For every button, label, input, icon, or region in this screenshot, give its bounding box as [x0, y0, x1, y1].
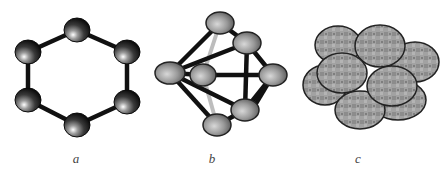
bonds	[28, 30, 127, 125]
sphere-icon	[317, 53, 367, 93]
atom-icon	[259, 64, 287, 86]
panel-b-cluster	[155, 12, 287, 136]
atom-icon	[231, 99, 259, 121]
atom-icon	[233, 32, 261, 54]
atom-icon	[64, 113, 90, 137]
panel-label-a: a	[73, 151, 80, 167]
panel-a-ring	[15, 18, 140, 137]
atom-icon	[15, 40, 41, 64]
atom-icon	[203, 114, 231, 136]
atom-icon	[15, 88, 41, 112]
panel-c-packing	[303, 25, 439, 129]
panel-label-c: c	[355, 151, 361, 167]
figure-canvas	[0, 0, 448, 173]
atom-icon	[206, 12, 234, 34]
panel-label-b: b	[209, 151, 216, 167]
atom-icon	[114, 90, 140, 114]
atoms	[15, 18, 140, 137]
atom-icon	[64, 18, 90, 42]
atom-icon	[155, 62, 185, 84]
atom-icon	[114, 40, 140, 64]
atom-icon	[190, 64, 216, 86]
sphere-icon	[367, 66, 417, 106]
